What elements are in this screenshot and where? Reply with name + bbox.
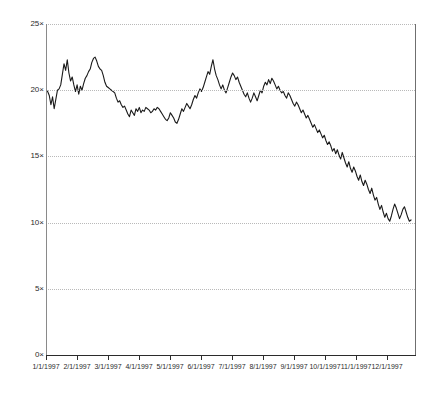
line-chart: 0×5×10×15×20×25× 1/1/19972/1/19973/1/199… [0, 0, 438, 394]
x-axis-line [46, 355, 416, 356]
gridline-y-5 [46, 289, 415, 290]
y-tick-label: 15× [4, 152, 44, 160]
x-tick-mark [232, 355, 233, 360]
gridline-y-25 [46, 24, 415, 25]
x-tick-mark [77, 355, 78, 360]
y-tick-label: 25× [4, 20, 44, 28]
y-tick-label: 5× [4, 285, 44, 293]
x-tick-mark [108, 355, 109, 360]
gridline-y-15 [46, 156, 415, 157]
x-tick-mark [46, 355, 47, 360]
x-tick-mark [387, 355, 388, 360]
plot-right-border [415, 24, 416, 356]
x-tick-mark [201, 355, 202, 360]
y-tick-label: 20× [4, 86, 44, 94]
x-tick-mark [356, 355, 357, 360]
data-series-line [46, 24, 415, 355]
gridline-y-10 [46, 223, 415, 224]
x-tick-label: 12/1/1997 [364, 363, 410, 371]
gridline-y-20 [46, 90, 415, 91]
y-tick-label: 10× [4, 219, 44, 227]
y-tick-label: 0× [4, 351, 44, 359]
y-axis-line [46, 24, 47, 356]
plot-area [46, 24, 415, 355]
x-tick-mark [263, 355, 264, 360]
x-tick-mark [170, 355, 171, 360]
x-tick-mark [294, 355, 295, 360]
x-tick-mark [139, 355, 140, 360]
x-tick-mark [325, 355, 326, 360]
